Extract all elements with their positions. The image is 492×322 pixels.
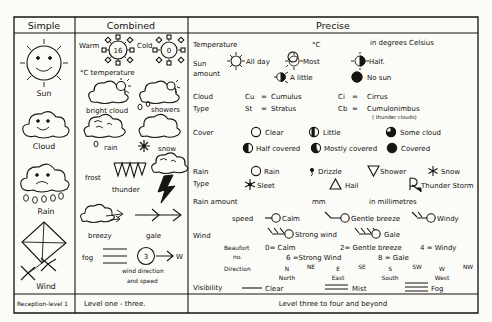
simple-label-wind: Wind — [36, 282, 56, 291]
combined-cold-value: 0 — [167, 47, 171, 55]
direction-abbr-se: SE — [358, 264, 366, 270]
wind-speed-strong-wind-label: Strong wind — [295, 231, 337, 239]
precise-temperature-note: in degrees Celsius — [370, 39, 434, 47]
circle-three-quarter-icon — [386, 127, 395, 136]
column-header-combined: Combined — [107, 20, 155, 31]
combined-bright-cloud-symbol — [89, 78, 131, 104]
circle-rain-icon — [251, 166, 260, 175]
wind-barb-windy-icon — [412, 212, 435, 222]
cover-mostly-covered-label: Mostly covered — [324, 145, 377, 153]
rain-type-rain-label: Rain — [264, 168, 279, 176]
column-header-precise: Precise — [316, 20, 350, 31]
precise-rain-amount-unit: mm — [312, 198, 326, 206]
circle-empty-icon — [251, 127, 260, 136]
beaufort-8: 8 = Gale — [378, 254, 409, 262]
cover-clear-label: Clear — [265, 129, 283, 137]
wind-speed-calm-label: Calm — [282, 215, 300, 223]
precise-label-cloud-type-1: Cloud — [193, 93, 213, 101]
combined-warm-label: Warm — [79, 42, 100, 50]
sleet-star-icon — [245, 179, 255, 190]
cover-half-covered-label: Half covered — [256, 145, 300, 153]
beaufort-2: 2= Gentle breeze — [340, 244, 402, 252]
circle-half-icon — [243, 143, 252, 152]
combined-rain-symbol — [84, 114, 125, 146]
rain-type-sleet-label: Sleet — [257, 182, 275, 190]
precise-label-rain-amount: Rain amount — [193, 198, 238, 206]
combined-label-breezy: breezy — [88, 232, 112, 240]
combined-breezy-symbol — [81, 204, 123, 222]
precise-label-wind-speed: speed — [232, 215, 253, 223]
cloud-note-cb: ( thunder clouds) — [372, 114, 417, 120]
combined-cold-label: Cold — [137, 42, 153, 50]
beaufort-6: 6 =Strong Wind — [286, 254, 341, 262]
raindrops — [24, 193, 64, 204]
direction-abbr-ne: NE — [307, 264, 315, 270]
precise-label-sun-amount-1: Sun — [193, 60, 206, 68]
cloud-abbr-st: St — [245, 105, 252, 113]
visibility-clear-label: Clear — [265, 285, 283, 293]
footer-precise: Level three to four and beyond — [279, 300, 387, 308]
precise-rain-amount-note: in millimetres — [369, 198, 417, 206]
cloud-eq-cu: = — [261, 93, 267, 101]
combined-label-snow: snow — [158, 145, 176, 153]
direction-name-w: West — [435, 275, 450, 281]
precise-sun-none-label: No sun — [367, 74, 391, 82]
precise-sun-a-little-label: A little — [290, 74, 313, 82]
precise-label-rain-type-2: Type — [192, 180, 209, 188]
precise-label-wind: Wind — [193, 232, 211, 240]
kite-bows — [21, 258, 56, 280]
asterisk-snow-icon — [429, 166, 438, 176]
precise-label-cloud-type-2: Type — [192, 105, 209, 113]
rain-type-hail-label: Hail — [345, 182, 358, 190]
wind-speed-gale-label: Gale — [384, 231, 400, 239]
combined-thunder-symbol — [152, 153, 188, 203]
cover-some-cloud-label: Some cloud — [400, 129, 441, 137]
footer-simple: Reception-level 1 — [17, 301, 68, 308]
circle-quarter-left-icon — [309, 127, 318, 136]
triangle-down-icon — [368, 166, 379, 176]
weather-symbols-chart: Simple Combined Precise Reception-level … — [0, 0, 492, 322]
combined-wind-caption-line2: and speed — [127, 278, 158, 285]
sun-all-day-icon — [227, 52, 245, 70]
precise-label-beaufort-2: no. — [233, 254, 242, 260]
direction-abbr-w: W — [439, 266, 445, 272]
cloud-eq-st: = — [261, 105, 267, 113]
cloud-eq-ci: = — [352, 93, 358, 101]
combined-warm-value: 16 — [114, 47, 123, 55]
comma-drizzle-icon — [310, 168, 313, 176]
visibility-mist-label: Mist — [352, 285, 367, 293]
combined-wind-dial-symbol: 3 W — [138, 248, 184, 265]
precise-sun-all-day-label: All day — [246, 58, 270, 66]
simple-label-cloud: Cloud — [33, 142, 55, 151]
cloud-name-ci: Cirrus — [367, 93, 388, 101]
combined-fog-symbol — [103, 249, 127, 263]
cloud-name-cu: Cumulus — [271, 93, 302, 101]
wind-speed-windy-label: Windy — [437, 215, 459, 223]
r-thunder-icon — [410, 178, 421, 192]
sun-none-icon — [352, 72, 362, 82]
direction-abbr-sw: SW — [412, 264, 422, 270]
cloud-name-cb: Cumulonimbus — [367, 105, 420, 113]
combined-warm-thermo-sun: 16 — [102, 35, 134, 65]
circle-full-icon — [387, 143, 397, 153]
precise-label-direction: Direction — [224, 266, 251, 272]
sun-half-icon — [351, 52, 369, 70]
cloud-name-st: Stratus — [271, 105, 297, 113]
simple-sun-symbol — [20, 39, 68, 87]
footer-combined: Level one - three. — [84, 300, 145, 308]
combined-frost-symbol — [114, 163, 146, 177]
precise-sun-half-label: Half. — [369, 58, 385, 66]
combined-label-fog: fog — [82, 254, 93, 262]
simple-rain-cloud-symbol — [21, 164, 69, 203]
cloud-abbr-cu: Cu — [245, 93, 254, 101]
column-header-simple: Simple — [28, 20, 61, 31]
wind-barb-gentle-breeze-icon — [325, 212, 349, 222]
precise-label-temperature: Temperature — [192, 41, 237, 49]
simple-kite-symbol — [21, 222, 66, 280]
cover-covered-label: Covered — [401, 145, 430, 153]
combined-cold-thermo-sun: 0 — [153, 35, 185, 65]
combined-gale-symbol — [135, 209, 181, 221]
circle-mostly-icon — [311, 143, 320, 152]
wind-barb-strong-wind-icon — [268, 228, 293, 238]
simple-label-rain: Rain — [37, 207, 54, 216]
